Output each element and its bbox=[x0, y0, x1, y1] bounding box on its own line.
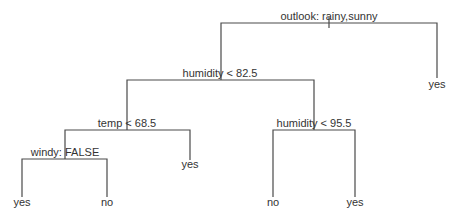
leaf-no-windy-right: no bbox=[101, 196, 113, 208]
node-label-humidity-82-5: humidity < 82.5 bbox=[183, 67, 258, 79]
leaf-yes-humidity-right: yes bbox=[346, 196, 364, 208]
node-windy-false: windy: FALSE bbox=[22, 146, 107, 197]
decision-tree: outlook: rainy,sunny yes humidity < 82.5… bbox=[0, 0, 457, 219]
node-label-humidity-95-5: humidity < 95.5 bbox=[277, 117, 352, 129]
node-label-windy-false: windy: FALSE bbox=[30, 146, 99, 158]
node-label-outlook: outlook: rainy,sunny bbox=[280, 10, 378, 22]
leaf-yes-windy-left: yes bbox=[13, 196, 31, 208]
leaf-no-humidity-left: no bbox=[267, 196, 279, 208]
leaf-yes-temp-right: yes bbox=[181, 158, 199, 170]
leaf-yes-outlook-right: yes bbox=[428, 78, 446, 90]
node-label-temp-68-5: temp < 68.5 bbox=[98, 117, 156, 129]
